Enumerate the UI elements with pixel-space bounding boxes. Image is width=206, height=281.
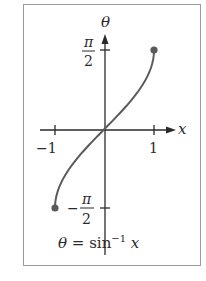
endpoint-dot-bottom — [51, 204, 58, 211]
arcsin-graph: θ x −1 1 π 2 − π 2 θ = sin−1 x — [0, 0, 206, 281]
y-axis-arrow-icon — [102, 34, 109, 44]
y-axis-label: θ — [101, 13, 110, 31]
svg-text:2: 2 — [84, 53, 93, 69]
svg-text:−: − — [67, 200, 79, 216]
svg-text:2: 2 — [82, 211, 91, 227]
caption-equation: θ = sin−1 x — [58, 233, 140, 252]
y-axis — [100, 34, 110, 255]
endpoint-dot-top — [150, 46, 157, 53]
y-tick-label-pi-half: π 2 — [82, 34, 95, 69]
x-tick-label-1: 1 — [149, 140, 158, 156]
x-axis-arrow-icon — [166, 127, 176, 134]
y-tick-label-neg-pi-half: − π 2 — [67, 191, 94, 227]
svg-text:π: π — [83, 34, 94, 50]
x-axis-label: x — [178, 120, 187, 138]
x-tick-label-neg1: −1 — [36, 140, 57, 156]
svg-text:π: π — [81, 191, 92, 207]
